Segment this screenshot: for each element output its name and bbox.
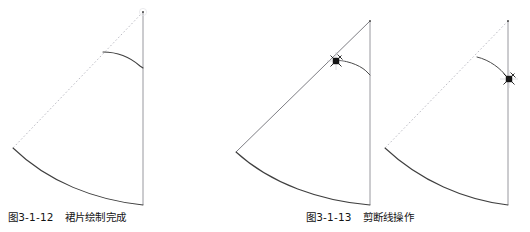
figure-caption-1-title: 裙片绘制完成 bbox=[65, 211, 126, 223]
waist-curve bbox=[336, 60, 370, 75]
figure-caption-2-title: 剪断线操作 bbox=[363, 211, 414, 223]
apex-point bbox=[369, 20, 371, 22]
figure-3-1-13-before bbox=[215, 0, 385, 232]
figure-3-1-13-after bbox=[380, 0, 530, 232]
apex-point bbox=[142, 11, 144, 13]
hem-arc bbox=[13, 148, 143, 205]
waist-curve bbox=[477, 57, 508, 78]
figure-3-1-12 bbox=[0, 0, 200, 232]
center-radius-dashed-line bbox=[385, 21, 508, 148]
hem-arc bbox=[236, 152, 370, 205]
center-radius-solid-line bbox=[236, 21, 370, 152]
figure-caption-2: 图3-1-13剪断线操作 bbox=[306, 210, 414, 224]
waist-curve bbox=[103, 52, 143, 68]
hem-arc bbox=[385, 148, 508, 205]
figure-caption-1: 图3-1-12裙片绘制完成 bbox=[8, 210, 126, 224]
figure-caption-1-number: 图3-1-12 bbox=[8, 211, 54, 223]
figure-sheet: 图3-1-12裙片绘制完成 图3-1-13剪断线操作 bbox=[0, 0, 530, 232]
figure-3-1-13-before-drawing bbox=[215, 0, 385, 210]
figure-caption-2-number: 图3-1-13 bbox=[306, 211, 352, 223]
center-radius-dashed-line bbox=[13, 12, 143, 148]
figure-3-1-12-drawing bbox=[0, 0, 200, 210]
apex-point bbox=[507, 20, 509, 22]
figure-3-1-13-after-drawing bbox=[380, 0, 530, 210]
